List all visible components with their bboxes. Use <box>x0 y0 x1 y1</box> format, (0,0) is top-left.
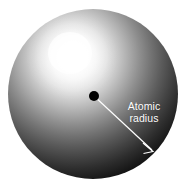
nucleus-dot <box>89 91 99 101</box>
atomic-radius-diagram: Atomic radius <box>0 0 188 195</box>
atom-illustration <box>0 0 188 195</box>
sphere-highlight-core <box>48 32 92 74</box>
